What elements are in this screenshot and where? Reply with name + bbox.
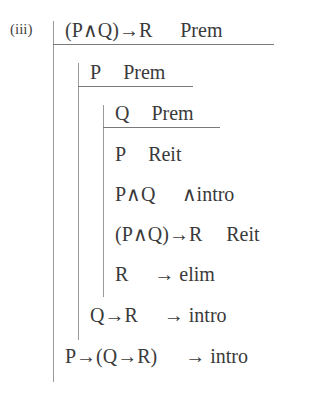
proof-line-1: (P∧Q)→RPrem (65, 20, 222, 40)
formula: (P∧Q)→R (65, 19, 152, 41)
justification: → intro (185, 345, 248, 367)
scope-bar-outer (53, 21, 54, 382)
justification: Reit (148, 143, 181, 165)
proof-line-5: P∧Q∧intro (115, 184, 234, 204)
premise-line-outer (53, 44, 274, 45)
formula: (P∧Q)→R (115, 223, 202, 245)
premise-line-middle (78, 86, 193, 87)
formula: P∧Q (115, 183, 156, 205)
justification: → elim (154, 263, 215, 285)
formula: Q→R (90, 304, 138, 326)
justification: Reit (226, 223, 259, 245)
formula: P (90, 61, 101, 83)
justification: ∧intro (182, 183, 235, 205)
proof-line-4: PReit (115, 144, 181, 164)
proof-line-7: R→ elim (115, 264, 215, 284)
proof-line-2: PPrem (90, 62, 165, 82)
proof-label: (iii) (10, 21, 33, 38)
justification: → intro (164, 304, 227, 326)
premise-line-inner (103, 127, 220, 128)
justification: Prem (151, 102, 193, 124)
scope-bar-inner (103, 105, 104, 297)
formula: P→(Q→R) (65, 345, 157, 367)
formula: Q (115, 102, 129, 124)
proof-line-3: QPrem (115, 103, 194, 123)
formula: R (115, 263, 128, 285)
justification: Prem (123, 61, 165, 83)
proof-line-9: P→(Q→R)→ intro (65, 346, 248, 366)
formula: P (115, 143, 126, 165)
proof-line-6: (P∧Q)→RReit (115, 224, 260, 244)
proof-line-8: Q→R→ intro (90, 305, 227, 325)
scope-bar-middle (78, 63, 79, 340)
justification: Prem (180, 19, 222, 41)
